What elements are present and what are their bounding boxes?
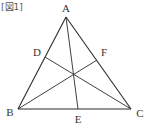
side-AB (18, 17, 66, 109)
vertex-labels: A B C D E F (6, 2, 143, 125)
cevian-CD (45, 57, 131, 109)
label-c: C (136, 107, 143, 119)
figure-caption: [図1] (1, 2, 23, 12)
triangle-lines (18, 17, 131, 109)
label-f: F (101, 46, 107, 58)
label-d: D (33, 46, 41, 58)
label-b: B (6, 106, 13, 118)
triangle-figure: [図1] A B C D E F (0, 0, 147, 127)
label-e: E (75, 113, 82, 125)
cevian-BF (18, 60, 97, 109)
label-a: A (62, 2, 70, 14)
